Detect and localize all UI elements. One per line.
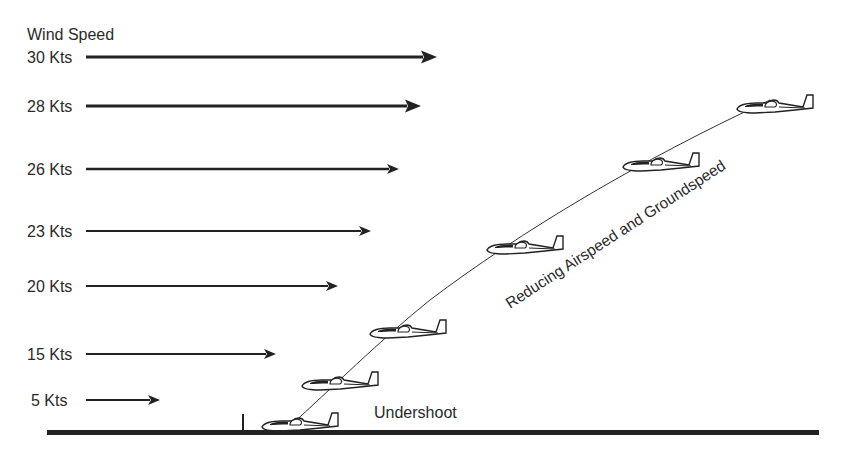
wind-arrow-head-icon: [421, 51, 437, 64]
glider-icon: [370, 320, 446, 338]
glider-icon: [623, 153, 699, 171]
wind-speed-title: Wind Speed: [27, 26, 114, 43]
undershoot-label: Undershoot: [374, 404, 457, 421]
gliders: [262, 95, 813, 431]
glider-icon: [302, 372, 378, 390]
wind-row: 28 Kts: [27, 98, 421, 115]
wind-row: 20 Kts: [27, 278, 338, 295]
wind-speed-label: 20 Kts: [27, 278, 72, 295]
wind-row: 30 Kts: [27, 49, 437, 66]
wind-row: 23 Kts: [27, 223, 371, 240]
ground-line: [47, 430, 819, 435]
wind-speed-label: 30 Kts: [27, 49, 72, 66]
glider-icon: [487, 236, 563, 254]
wind-gradient-diagram: Wind Speed 30 Kts28 Kts26 Kts23 Kts20 Kt…: [0, 0, 842, 453]
wind-arrow-head-icon: [405, 100, 421, 113]
wind-speed-label: 23 Kts: [27, 223, 72, 240]
glider-icon: [737, 95, 813, 113]
wind-speed-label: 5 Kts: [31, 392, 67, 409]
wind-row: 15 Kts: [27, 346, 276, 363]
wind-speed-label: 26 Kts: [27, 161, 72, 178]
glider-icon: [262, 413, 338, 431]
wind-speed-label: 28 Kts: [27, 98, 72, 115]
wind-speed-label: 15 Kts: [27, 346, 72, 363]
glide-path-line: [290, 100, 770, 426]
wind-row: 26 Kts: [27, 161, 399, 178]
threshold-post: [242, 414, 244, 432]
wind-row: 5 Kts: [31, 392, 160, 409]
wind-arrows: 30 Kts28 Kts26 Kts23 Kts20 Kts15 Kts5 Kt…: [27, 49, 437, 409]
